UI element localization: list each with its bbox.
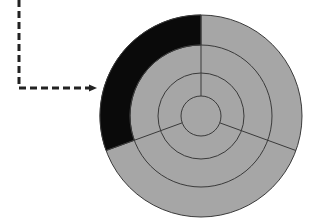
segmented-ring-diagram bbox=[0, 0, 324, 221]
dashed-pointer-arrow bbox=[19, 0, 95, 88]
ring-1-core bbox=[181, 96, 221, 136]
